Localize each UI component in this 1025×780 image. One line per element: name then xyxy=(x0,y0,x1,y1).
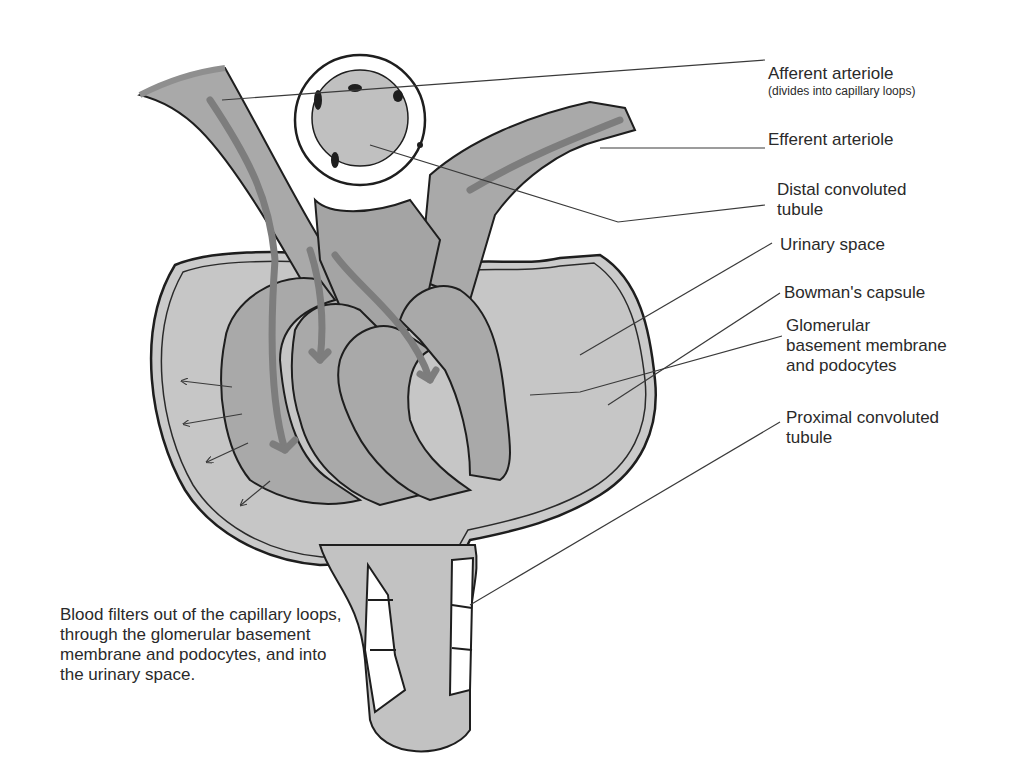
label-afferent-arteriole: Afferent arteriole (divides into capilla… xyxy=(768,44,915,119)
caption: Blood filters out of the capillary loops… xyxy=(60,605,350,685)
label-urinary-space: Urinary space xyxy=(780,235,885,255)
label-text: Afferent arteriole xyxy=(768,64,893,83)
label-distal-convoluted-tubule: Distal convoluted tubule xyxy=(777,180,906,220)
distal-tubule xyxy=(295,55,425,185)
label-glomerular-basement-membrane: Glomerular basement membrane and podocyt… xyxy=(786,316,947,376)
label-proximal-convoluted-tubule: Proximal convoluted tubule xyxy=(786,408,939,448)
label-subtext: (divides into capillary loops) xyxy=(768,84,915,99)
label-bowmans-capsule: Bowman's capsule xyxy=(784,283,925,303)
label-efferent-arteriole: Efferent arteriole xyxy=(768,130,893,150)
